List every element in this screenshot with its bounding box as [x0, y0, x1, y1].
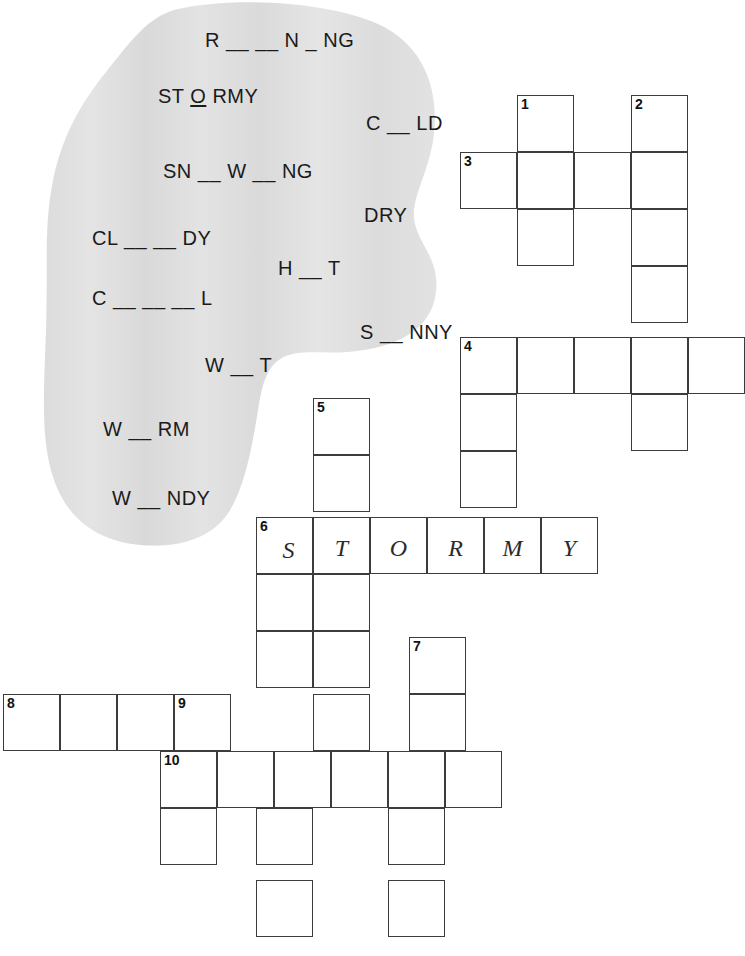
- crossword-cell[interactable]: Y: [541, 517, 598, 574]
- crossword-cell[interactable]: [517, 152, 574, 209]
- crossword-cell[interactable]: [460, 394, 517, 451]
- cell-letter: S: [257, 518, 312, 573]
- crossword-cell[interactable]: [256, 574, 313, 631]
- clue-number-7: 7: [413, 638, 421, 654]
- crossword-cell[interactable]: [631, 394, 688, 451]
- clue-number-9: 9: [178, 695, 186, 711]
- crossword-cell[interactable]: [631, 152, 688, 209]
- crossword-cell[interactable]: [313, 455, 370, 512]
- crossword-cell-1[interactable]: 1: [517, 95, 574, 152]
- clue-number-10: 10: [164, 752, 180, 768]
- crossword-cell-9[interactable]: 9: [174, 694, 231, 751]
- crossword-cell[interactable]: [631, 209, 688, 266]
- crossword-cell[interactable]: [313, 574, 370, 631]
- crossword-cell[interactable]: [388, 751, 445, 808]
- crossword-cell[interactable]: [313, 631, 370, 688]
- crossword-cell[interactable]: [460, 451, 517, 508]
- crossword-cell[interactable]: [217, 751, 274, 808]
- crossword-cell[interactable]: [256, 808, 313, 865]
- crossword-cell-4[interactable]: 4: [460, 337, 517, 394]
- crossword-cell[interactable]: [256, 880, 313, 937]
- crossword-cell[interactable]: [631, 266, 688, 323]
- crossword-cell[interactable]: [574, 337, 631, 394]
- crossword-cell-10[interactable]: 10: [160, 751, 217, 808]
- crossword-cell[interactable]: [60, 694, 117, 751]
- clue-number-3: 3: [464, 153, 472, 169]
- cell-letter: R: [428, 518, 483, 573]
- crossword-cell[interactable]: [631, 337, 688, 394]
- crossword-cell[interactable]: O: [370, 517, 427, 574]
- clue-number-5: 5: [317, 399, 325, 415]
- crossword-cell-6[interactable]: 6S: [256, 517, 313, 574]
- crossword-cell[interactable]: M: [484, 517, 541, 574]
- crossword-cell-8[interactable]: 8: [3, 694, 60, 751]
- crossword-cell[interactable]: [517, 337, 574, 394]
- crossword-cell[interactable]: [274, 751, 331, 808]
- crossword-cell[interactable]: [117, 694, 174, 751]
- crossword-cell[interactable]: [256, 631, 313, 688]
- crossword-cell[interactable]: [409, 694, 466, 751]
- crossword-cell[interactable]: [331, 751, 388, 808]
- clue-number-8: 8: [7, 695, 15, 711]
- crossword-cell[interactable]: R: [427, 517, 484, 574]
- crossword-cell[interactable]: [388, 808, 445, 865]
- crossword-cell-5[interactable]: 5: [313, 398, 370, 455]
- clue-number-1: 1: [521, 96, 529, 112]
- clue-number-4: 4: [464, 338, 472, 354]
- cell-letter: Y: [542, 518, 597, 573]
- crossword-cell[interactable]: [388, 880, 445, 937]
- crossword-cell[interactable]: [574, 152, 631, 209]
- clue-number-2: 2: [635, 96, 643, 112]
- crossword-cell[interactable]: [517, 209, 574, 266]
- crossword-cell-3[interactable]: 3: [460, 152, 517, 209]
- crossword-cell[interactable]: [445, 751, 502, 808]
- cell-letter: T: [314, 518, 369, 573]
- crossword-cell[interactable]: [313, 694, 370, 751]
- crossword-cell-2[interactable]: 2: [631, 95, 688, 152]
- cell-letter: O: [371, 518, 426, 573]
- cell-letter: M: [485, 518, 540, 573]
- crossword-cell[interactable]: [688, 337, 745, 394]
- crossword-cell[interactable]: [160, 808, 217, 865]
- crossword-cell[interactable]: T: [313, 517, 370, 574]
- crossword-cell-7[interactable]: 7: [409, 637, 466, 694]
